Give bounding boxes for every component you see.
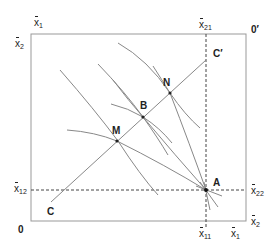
x21-label: x21: [199, 20, 212, 31]
x1-top-label: x1: [34, 18, 43, 29]
indifference-curve-m-1: [60, 70, 158, 195]
point-n-marker: [168, 91, 171, 94]
point-c-label: C: [47, 207, 54, 217]
point-a-marker: [204, 188, 208, 192]
origin-label: 0: [18, 225, 24, 235]
x12-label: x12: [14, 184, 27, 195]
x2-left-label: x2: [15, 39, 24, 50]
curve-extension-a-2: [204, 182, 210, 210]
indifference-curve-m-2: [67, 130, 206, 190]
x2-right-label: x2: [251, 217, 260, 228]
point-b-marker: [141, 115, 144, 118]
point-c-prime-label: C′: [213, 49, 223, 59]
origin-prime-label: 0′: [251, 25, 259, 35]
x11-label: x11: [199, 229, 211, 240]
indifference-curve-b-1: [98, 64, 168, 155]
point-m-marker: [115, 139, 118, 142]
point-b-label: B: [140, 101, 147, 111]
indifference-curve-n-1: [118, 43, 200, 128]
x22-label: x22: [251, 186, 264, 197]
point-a-label: A: [213, 178, 220, 188]
x1-bottom-label: x1: [231, 229, 240, 240]
point-n-label: N: [163, 78, 170, 88]
point-m-label: M: [112, 126, 120, 136]
edgeworth-box-diagram: [0, 0, 279, 247]
